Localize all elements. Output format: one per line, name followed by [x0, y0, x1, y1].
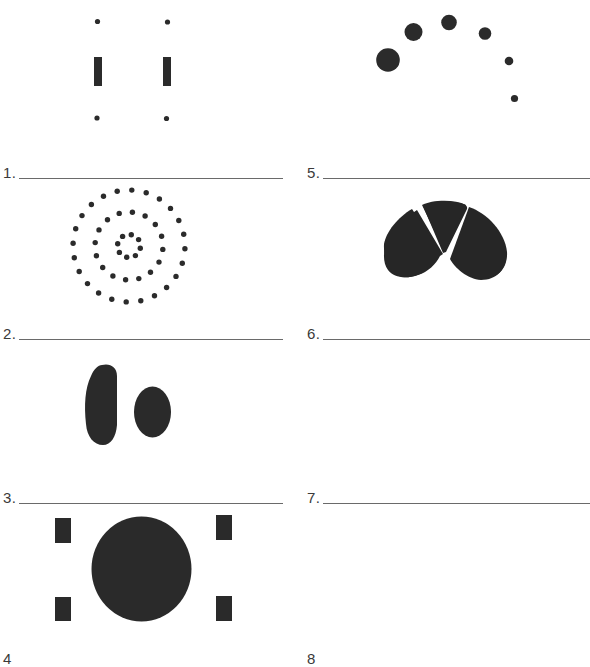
answer-field-2[interactable] — [19, 339, 283, 340]
answer-field-6[interactable] — [323, 339, 590, 340]
item-number-4: 4 — [3, 651, 12, 666]
item-number-1: 1. — [3, 165, 17, 180]
answer-row-3: 3. — [3, 485, 283, 505]
answer-field-1[interactable] — [19, 178, 283, 179]
answer-row-7: 7. — [307, 485, 590, 505]
answer-row-1: 1. — [3, 160, 283, 180]
answer-row-6: 6. — [307, 321, 590, 341]
item-number-3: 3. — [3, 490, 17, 505]
item-number-7: 7. — [307, 490, 321, 505]
item-number-5: 5. — [307, 165, 321, 180]
answer-field-7[interactable] — [323, 503, 590, 504]
item-number-6: 6. — [307, 326, 321, 341]
answer-row-4: 4 — [3, 646, 283, 666]
item-number-8: 8 — [307, 651, 316, 666]
answer-row-2: 2. — [3, 321, 283, 341]
answer-row-8: 8 — [307, 646, 590, 666]
answer-field-5[interactable] — [323, 178, 590, 179]
item-number-2: 2. — [3, 326, 17, 341]
answer-field-3[interactable] — [19, 503, 283, 504]
answer-row-5: 5. — [307, 160, 590, 180]
